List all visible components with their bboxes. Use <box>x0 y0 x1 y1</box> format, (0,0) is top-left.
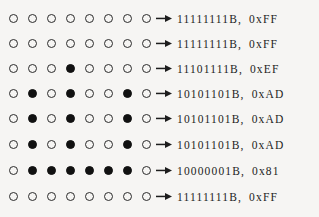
open-circle-icon[interactable] <box>9 140 18 149</box>
open-circle-icon[interactable] <box>85 114 94 123</box>
bit-circle-group <box>9 184 161 209</box>
filled-circle-icon[interactable] <box>28 89 37 98</box>
open-circle-icon[interactable] <box>47 140 56 149</box>
value-separator: , <box>238 13 242 25</box>
open-circle-icon[interactable] <box>9 166 18 175</box>
open-circle-icon[interactable] <box>123 192 132 201</box>
value-separator: , <box>241 88 245 100</box>
open-circle-icon[interactable] <box>47 192 56 201</box>
open-circle-icon[interactable] <box>9 89 18 98</box>
open-circle-icon[interactable] <box>85 140 94 149</box>
bit-circle-group <box>9 132 161 157</box>
bit-row: 10000001B,0x81 <box>0 158 319 183</box>
open-circle-icon[interactable] <box>66 192 75 201</box>
hex-value: 0xAD <box>252 139 285 151</box>
filled-circle-icon[interactable] <box>123 140 132 149</box>
open-circle-icon[interactable] <box>104 140 113 149</box>
open-circle-icon[interactable] <box>104 192 113 201</box>
binary-value: 10101101B <box>177 113 241 125</box>
open-circle-icon[interactable] <box>85 89 94 98</box>
open-circle-icon[interactable] <box>28 39 37 48</box>
value-separator: , <box>238 191 242 203</box>
hex-value: 0xEF <box>250 63 280 75</box>
right-arrow-icon <box>156 158 172 183</box>
byte-value-label: 11111111B,0xFF <box>177 184 278 209</box>
right-arrow-icon <box>156 6 172 31</box>
open-circle-icon[interactable] <box>9 114 18 123</box>
hex-value: 0xAD <box>252 88 285 100</box>
binary-value: 11111111B <box>177 38 238 50</box>
hex-value: 0xAD <box>252 113 285 125</box>
open-circle-icon[interactable] <box>85 14 94 23</box>
filled-circle-icon[interactable] <box>66 140 75 149</box>
filled-circle-icon[interactable] <box>123 114 132 123</box>
binary-value: 11111111B <box>177 191 238 203</box>
open-circle-icon[interactable] <box>104 14 113 23</box>
open-circle-icon[interactable] <box>142 64 151 73</box>
right-arrow-icon <box>156 31 172 56</box>
binary-value: 10000001B <box>177 165 241 177</box>
bit-pattern-diagram: 11111111B,0xFF11111111B,0xFF11101111B,0x… <box>0 0 319 217</box>
open-circle-icon[interactable] <box>9 39 18 48</box>
filled-circle-icon[interactable] <box>28 114 37 123</box>
byte-value-label: 10101101B,0xAD <box>177 81 284 106</box>
filled-circle-icon[interactable] <box>123 89 132 98</box>
hex-value: 0x81 <box>252 165 280 177</box>
open-circle-icon[interactable] <box>9 64 18 73</box>
filled-circle-icon[interactable] <box>66 64 75 73</box>
right-arrow-icon <box>156 56 172 81</box>
right-arrow-icon <box>156 81 172 106</box>
filled-circle-icon[interactable] <box>66 166 75 175</box>
binary-value: 10101101B <box>177 139 241 151</box>
binary-value: 10101101B <box>177 88 241 100</box>
open-circle-icon[interactable] <box>47 39 56 48</box>
open-circle-icon[interactable] <box>104 39 113 48</box>
byte-value-label: 10000001B,0x81 <box>177 158 280 183</box>
open-circle-icon[interactable] <box>142 140 151 149</box>
filled-circle-icon[interactable] <box>66 89 75 98</box>
filled-circle-icon[interactable] <box>66 114 75 123</box>
open-circle-icon[interactable] <box>28 192 37 201</box>
bit-row: 11111111B,0xFF <box>0 31 319 56</box>
filled-circle-icon[interactable] <box>28 166 37 175</box>
open-circle-icon[interactable] <box>85 192 94 201</box>
filled-circle-icon[interactable] <box>28 140 37 149</box>
value-separator: , <box>241 165 245 177</box>
open-circle-icon[interactable] <box>142 114 151 123</box>
value-separator: , <box>241 139 245 151</box>
open-circle-icon[interactable] <box>47 64 56 73</box>
open-circle-icon[interactable] <box>142 192 151 201</box>
open-circle-icon[interactable] <box>104 64 113 73</box>
open-circle-icon[interactable] <box>28 14 37 23</box>
filled-circle-icon[interactable] <box>85 166 94 175</box>
bit-circle-group <box>9 158 161 183</box>
open-circle-icon[interactable] <box>47 89 56 98</box>
open-circle-icon[interactable] <box>123 64 132 73</box>
open-circle-icon[interactable] <box>142 39 151 48</box>
open-circle-icon[interactable] <box>47 14 56 23</box>
open-circle-icon[interactable] <box>85 64 94 73</box>
open-circle-icon[interactable] <box>66 39 75 48</box>
open-circle-icon[interactable] <box>123 14 132 23</box>
bit-circle-group <box>9 106 161 131</box>
bit-row: 10101101B,0xAD <box>0 81 319 106</box>
open-circle-icon[interactable] <box>104 89 113 98</box>
open-circle-icon[interactable] <box>47 114 56 123</box>
right-arrow-icon <box>156 106 172 131</box>
open-circle-icon[interactable] <box>142 89 151 98</box>
open-circle-icon[interactable] <box>9 192 18 201</box>
open-circle-icon[interactable] <box>123 39 132 48</box>
filled-circle-icon[interactable] <box>123 166 132 175</box>
open-circle-icon[interactable] <box>9 14 18 23</box>
open-circle-icon[interactable] <box>104 114 113 123</box>
open-circle-icon[interactable] <box>28 64 37 73</box>
open-circle-icon[interactable] <box>142 14 151 23</box>
open-circle-icon[interactable] <box>142 166 151 175</box>
open-circle-icon[interactable] <box>66 14 75 23</box>
filled-circle-icon[interactable] <box>104 166 113 175</box>
hex-value: 0xFF <box>249 38 278 50</box>
hex-value: 0xFF <box>249 13 278 25</box>
right-arrow-icon <box>156 184 172 209</box>
open-circle-icon[interactable] <box>85 39 94 48</box>
filled-circle-icon[interactable] <box>47 166 56 175</box>
